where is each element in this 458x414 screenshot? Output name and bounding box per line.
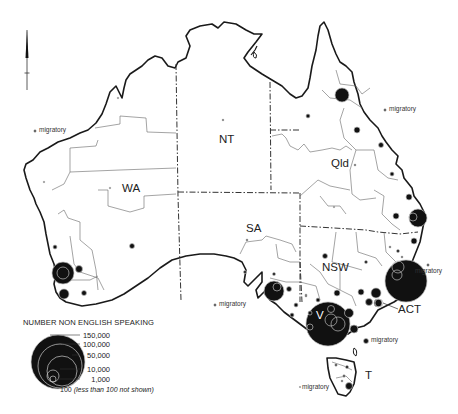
state-label-nsw: NSW [322,262,349,274]
migratory-label-tas: migratory [302,384,329,391]
migratory-label-nsw: migratory [415,268,442,275]
legend-note: 100 (less than 100 not shown) [60,386,154,393]
state-label-qld: Qld [331,158,349,170]
north-arrow-icon [25,30,30,90]
state-label-sa: SA [246,223,261,235]
state-label-tas: T [365,370,372,382]
state-label-nt: NT [219,134,234,146]
state-borders [176,64,418,302]
legend-value-10000: 10,000 [70,365,110,374]
state-label-act: ACT [398,304,421,316]
migratory-label-vic: migratory [371,337,398,344]
migratory-label-sa: migratory [219,301,246,308]
legend-value-50000: 50,000 [70,351,110,360]
migratory-label-qld: migratory [389,106,416,113]
legend-value-100000: 100,000 [70,340,110,349]
legend-title: NUMBER NON ENGLISH SPEAKING [23,318,154,327]
legend-value-150000: 150,000 [70,331,110,340]
legend-value-1000: 1,000 [70,375,110,384]
legend-note-value: 100 [60,386,72,393]
australia-map [0,0,458,414]
migratory-label-wa: migratory [39,127,66,134]
state-label-wa: WA [122,183,140,195]
state-label-vic: V [316,310,324,322]
legend-note-text: (less than 100 not shown) [74,386,154,393]
